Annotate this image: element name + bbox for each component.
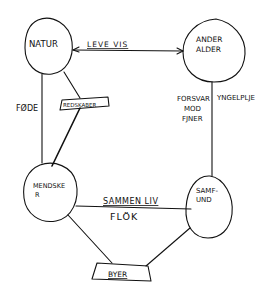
natur-label: NATUR — [29, 39, 58, 49]
samfund-node — [186, 176, 232, 238]
byer-label: BYER — [108, 270, 127, 279]
edge-redskaber-mendsker — [52, 108, 80, 166]
mendsker-node — [24, 163, 77, 221]
mod-label: MOD — [184, 105, 201, 113]
yngelplje-label: YNGELPLJE — [216, 94, 255, 102]
fjner-label: FJNER — [182, 115, 203, 123]
mendsker-label-1: MENDSKE — [33, 182, 65, 190]
flok-label: FLÖK — [110, 211, 138, 222]
ander-alder-label-1: ANDER — [196, 35, 222, 44]
forsvar-label: FORSVAR — [177, 95, 210, 103]
samfund-label-1: SAMF- — [196, 187, 218, 195]
mendsker-label-2: R — [35, 191, 40, 199]
edge-samfund-byer — [146, 228, 190, 266]
redskaber-label: REDSKABER — [63, 102, 97, 108]
edge-mendsker-samfund — [76, 206, 191, 209]
edge-natur-redskaber — [64, 72, 80, 98]
edge-natur-ander — [73, 50, 183, 51]
sammen-liv-label: SAMMEN LIV — [103, 197, 158, 206]
concept-map: NATUR ANDER ALDER MENDSKE R SAMF- UND BY… — [0, 0, 271, 292]
leve-vis-label: LEVE VIS — [87, 40, 128, 49]
edge-mendsker-byer — [68, 215, 112, 263]
ander-alder-label-2: ALDER — [196, 45, 221, 54]
fode-label: FØDE — [16, 103, 38, 113]
samfund-label-2: UND — [196, 196, 212, 204]
